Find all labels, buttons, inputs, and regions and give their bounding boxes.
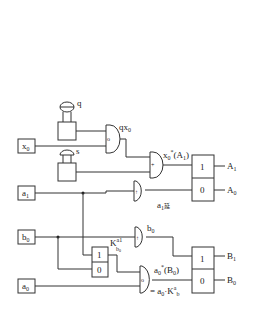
- svg-text:qx0: qx0: [119, 122, 131, 133]
- svg-text:↑: ↑: [136, 235, 139, 241]
- svg-text:1: 1: [200, 162, 205, 172]
- svg-text:a1延: a1延: [157, 200, 170, 211]
- svg-text:x0*(A1): x0*(A1): [163, 149, 189, 161]
- selector-K: 1 0 Ka1 b0: [92, 237, 122, 277]
- output-B1: B1: [227, 251, 236, 262]
- button-q-label: q: [77, 98, 82, 108]
- and-gate-qx0: o qx0: [106, 122, 131, 153]
- button-s-cap: [60, 150, 74, 155]
- or-gate-x0star: + x0*(A1): [150, 149, 189, 178]
- svg-text:o: o: [107, 136, 110, 142]
- input-a0: a0: [18, 279, 35, 293]
- register-B: 1 0: [192, 247, 214, 293]
- svg-text:= a0·Kab: = a0·Kab: [150, 285, 180, 297]
- svg-text:0: 0: [200, 276, 205, 286]
- output-A0: A0: [227, 185, 237, 196]
- logic-circuit-diagram: q s x0 a1 b0 a0 o qx0 + x0*(A1): [0, 0, 253, 317]
- output-A1: A1: [227, 161, 237, 172]
- svg-text:o: o: [141, 277, 144, 283]
- input-a1: a1: [18, 186, 35, 200]
- svg-text:1: 1: [97, 250, 102, 260]
- input-b0: b0: [18, 230, 35, 244]
- svg-text:b0: b0: [116, 246, 121, 253]
- button-q-body: [58, 122, 76, 140]
- svg-text:b0: b0: [147, 223, 155, 234]
- svg-text:0: 0: [200, 185, 205, 195]
- button-q: q: [58, 98, 82, 140]
- svg-text:↑: ↑: [135, 189, 138, 195]
- delay-gate-a1: ↑ a1延: [134, 181, 170, 211]
- svg-text:1: 1: [200, 254, 205, 264]
- button-s-label: s: [76, 146, 80, 156]
- svg-text:a0*(B0): a0*(B0): [154, 264, 179, 276]
- register-A: 1 0: [192, 155, 214, 201]
- button-s-body: [58, 163, 76, 181]
- svg-text:0: 0: [97, 265, 102, 275]
- button-s: s: [58, 146, 80, 181]
- delay-gate-b0: ↑ b0: [135, 223, 155, 247]
- input-x0: x0: [18, 139, 35, 153]
- output-B0: B0: [227, 275, 236, 286]
